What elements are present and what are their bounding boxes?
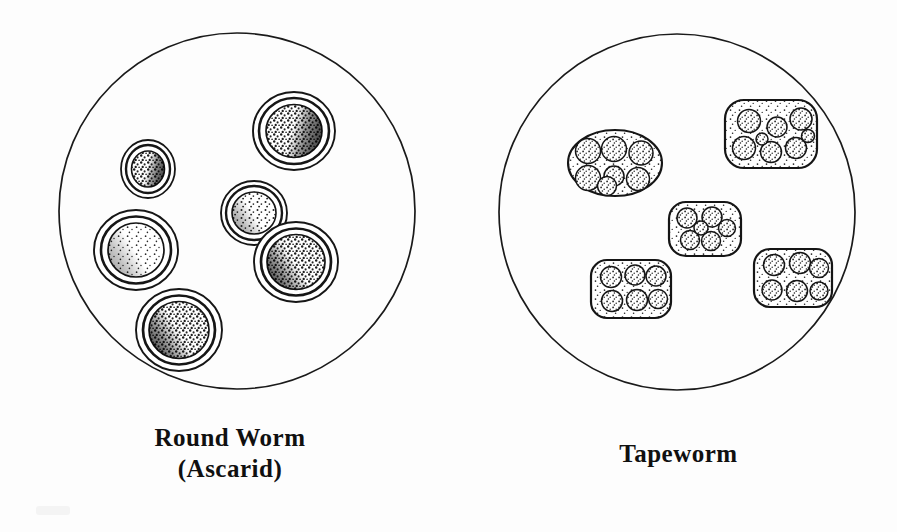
microscope-field-roundworm	[0, 0, 460, 420]
caption-roundworm-line2: (Ascarid)	[0, 453, 460, 484]
roundworm-egg	[253, 92, 335, 170]
tapeworm-egg-packet	[669, 202, 741, 256]
roundworm-egg	[254, 222, 338, 302]
illustration-page: Round Worm (Ascarid)	[0, 0, 897, 532]
panel-roundworm: Round Worm (Ascarid)	[0, 0, 460, 532]
microscope-field-tapeworm	[460, 0, 897, 420]
caption-roundworm-line1: Round Worm	[154, 424, 305, 451]
roundworm-egg	[136, 289, 222, 371]
tapeworm-egg-packet	[725, 100, 817, 168]
caption-tapeworm-line1: Tapeworm	[619, 440, 737, 467]
roundworm-egg	[121, 140, 175, 198]
page-artifact-smudge	[36, 506, 70, 515]
tapeworm-egg-packet	[591, 260, 671, 318]
roundworm-egg	[94, 210, 178, 290]
panel-tapeworm: Tapeworm	[460, 0, 897, 532]
tapeworm-egg-packet	[754, 249, 832, 307]
caption-tapeworm: Tapeworm	[460, 438, 897, 469]
tapeworm-egg-packet	[568, 130, 662, 196]
caption-roundworm: Round Worm (Ascarid)	[0, 422, 460, 484]
